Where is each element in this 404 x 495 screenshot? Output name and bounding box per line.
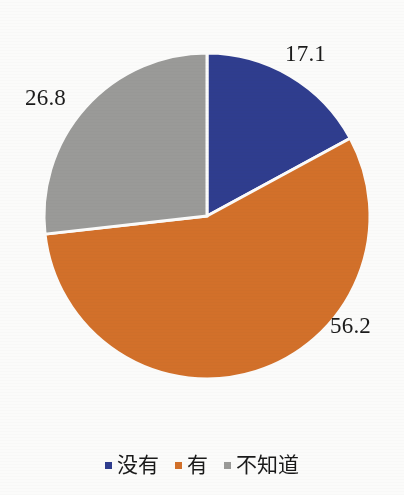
pie-slice-notknow[interactable] xyxy=(44,53,207,234)
legend-swatch-icon-yes xyxy=(175,462,182,469)
legend-item-notknow[interactable]: 不知道 xyxy=(224,455,299,476)
value-label-notknow: 26.8 xyxy=(25,86,66,109)
legend-swatch-icon-notknow xyxy=(224,462,231,469)
pie-chart: 17.1 56.2 26.8 没有 有 不知道 xyxy=(0,0,404,495)
chart-legend: 没有 有 不知道 xyxy=(0,445,404,485)
legend-item-yes[interactable]: 有 xyxy=(175,455,208,476)
legend-label-no: 没有 xyxy=(117,455,159,476)
legend-swatch-icon-no xyxy=(105,462,112,469)
value-label-no: 17.1 xyxy=(285,42,326,65)
legend-label-yes: 有 xyxy=(187,455,208,476)
legend-item-no[interactable]: 没有 xyxy=(105,455,159,476)
pie-plot-area xyxy=(0,0,404,430)
value-label-yes: 56.2 xyxy=(330,314,371,337)
pie-svg xyxy=(0,0,404,430)
legend-label-notknow: 不知道 xyxy=(236,455,299,476)
